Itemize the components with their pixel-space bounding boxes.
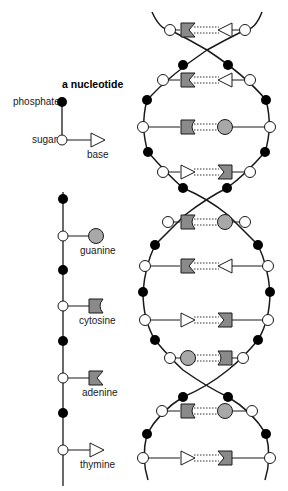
base-pair bbox=[165, 23, 251, 37]
base-label: base bbox=[87, 149, 109, 160]
guanine-label: guanine bbox=[80, 245, 116, 256]
sugar-icon bbox=[140, 261, 151, 272]
phosphate-icon bbox=[58, 194, 68, 204]
sugar-icon bbox=[58, 301, 68, 311]
base-pair bbox=[140, 259, 274, 273]
thymine-icon bbox=[181, 313, 195, 327]
phosphate-icon bbox=[58, 336, 68, 346]
thymine-icon bbox=[181, 165, 195, 179]
cytosine-icon bbox=[181, 215, 195, 229]
sugar-icon bbox=[265, 122, 276, 133]
sugar-icon bbox=[163, 217, 174, 228]
cytosine-icon bbox=[181, 120, 195, 134]
sugar-icon bbox=[247, 406, 258, 417]
sugar-icon bbox=[240, 217, 251, 228]
adenine-icon bbox=[181, 259, 195, 273]
sugar-icon bbox=[57, 135, 67, 145]
sugar-icon bbox=[240, 25, 251, 36]
sugar-label: sugar bbox=[32, 134, 58, 145]
double-helix bbox=[138, 12, 276, 480]
sugar-icon bbox=[265, 453, 276, 464]
base-pair bbox=[163, 215, 251, 230]
sugar-icon bbox=[158, 75, 169, 86]
adenine-icon bbox=[89, 371, 103, 385]
sugar-icon bbox=[245, 75, 256, 86]
sugar-icon bbox=[245, 167, 256, 178]
phosphates bbox=[138, 60, 275, 439]
nucleotide-legend: a nucleotide phosphate sugar base bbox=[13, 78, 123, 160]
sugar-icon bbox=[263, 261, 274, 272]
phosphate-icon bbox=[58, 265, 68, 275]
phosphate-label: phosphate bbox=[13, 96, 60, 107]
adenine-icon bbox=[218, 313, 232, 327]
legend-title: a nucleotide bbox=[62, 78, 123, 90]
cytosine-label: cytosine bbox=[79, 315, 116, 326]
guanine-icon bbox=[218, 404, 233, 419]
adenine-icon bbox=[218, 165, 232, 179]
sugar-icon bbox=[140, 315, 151, 326]
sugar-icon bbox=[158, 167, 169, 178]
sugar-icon bbox=[58, 231, 68, 241]
sugar-icon bbox=[138, 453, 149, 464]
sugar-icon bbox=[238, 353, 249, 364]
guanine-icon bbox=[181, 351, 196, 366]
base-pair bbox=[138, 120, 276, 135]
sugar-icon bbox=[157, 406, 168, 417]
guanine-icon bbox=[218, 215, 233, 230]
base-icon bbox=[91, 133, 105, 147]
thymine-icon bbox=[218, 259, 232, 273]
thymine-icon bbox=[218, 23, 232, 37]
adenine-icon bbox=[181, 73, 195, 87]
single-strand: guanine cytosine adenine thymine bbox=[58, 192, 118, 486]
thymine-label: thymine bbox=[80, 459, 115, 470]
base-pair bbox=[138, 451, 276, 465]
sugar-icon bbox=[165, 25, 176, 36]
sugar-icon bbox=[165, 353, 176, 364]
thymine-icon bbox=[218, 73, 232, 87]
sugar-icon bbox=[58, 445, 68, 455]
sugar-icon bbox=[138, 122, 149, 133]
sugar-icon bbox=[263, 315, 274, 326]
adenine-icon bbox=[181, 23, 195, 37]
thymine-icon bbox=[90, 443, 104, 457]
guanine-icon bbox=[89, 229, 104, 244]
adenine-label: adenine bbox=[82, 387, 118, 398]
adenine-icon bbox=[218, 451, 232, 465]
phosphate-icon bbox=[58, 408, 68, 418]
cytosine-icon bbox=[89, 299, 103, 313]
thymine-icon bbox=[181, 451, 195, 465]
cytosine-icon bbox=[181, 404, 195, 418]
sugar-icon bbox=[58, 373, 68, 383]
cytosine-icon bbox=[218, 351, 232, 365]
dna-diagram: a nucleotide phosphate sugar base guanin… bbox=[0, 0, 288, 491]
base-pair bbox=[140, 313, 274, 327]
guanine-icon bbox=[218, 120, 233, 135]
